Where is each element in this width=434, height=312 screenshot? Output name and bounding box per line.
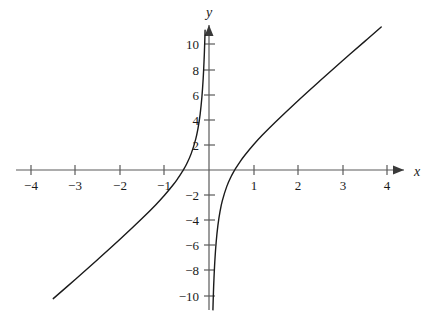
- y-tick-label-neg8: −8: [185, 263, 199, 278]
- curve-right-branch: [213, 27, 381, 310]
- x-tick-label-pos4: 4: [384, 178, 391, 193]
- graph-figure: −4 −3 −2 −1 1 2 3 4 10 8 6 4 2 −2 −4 −6 …: [0, 0, 434, 312]
- y-tick-label-neg4: −4: [185, 213, 199, 228]
- y-tick-label-neg10: −10: [179, 289, 199, 304]
- y-tick-label-pos8: 8: [193, 63, 200, 78]
- x-tick-label-neg3: −3: [68, 178, 82, 193]
- y-tick-label-neg2: −2: [185, 188, 199, 203]
- x-tick-label-neg4: −4: [24, 178, 38, 193]
- x-axis-tick-labels: −4 −3 −2 −1 1 2 3 4: [24, 178, 391, 193]
- x-tick-label-neg2: −2: [113, 178, 127, 193]
- axes-group: [16, 25, 404, 310]
- curve-left-branch: [53, 30, 205, 299]
- x-tick-label-pos1: 1: [251, 178, 258, 193]
- x-axis-arrow-icon: [393, 166, 404, 175]
- y-tick-label-neg6: −6: [185, 238, 199, 253]
- coordinate-plot: −4 −3 −2 −1 1 2 3 4 10 8 6 4 2 −2 −4 −6 …: [0, 0, 434, 312]
- y-axis-arrow-icon: [205, 25, 214, 36]
- y-axis-title: y: [204, 5, 213, 20]
- x-tick-label-pos3: 3: [340, 178, 347, 193]
- y-tick-label-pos6: 6: [193, 88, 200, 103]
- y-tick-label-pos10: 10: [186, 37, 199, 52]
- curve-group: [53, 27, 381, 310]
- x-tick-label-pos2: 2: [295, 178, 302, 193]
- x-axis-title: x: [413, 164, 421, 179]
